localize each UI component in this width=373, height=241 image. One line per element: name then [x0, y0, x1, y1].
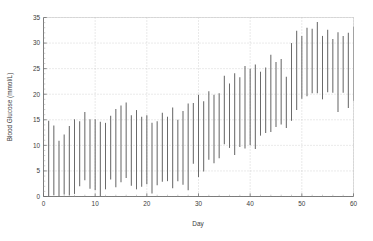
x-tick-label: 30: [195, 200, 203, 207]
x-tick-label: 10: [92, 200, 100, 207]
y-tick-label: 35: [33, 14, 41, 21]
y-tick-label: 25: [33, 65, 41, 72]
tick-labels: 051015202530350102030405060: [33, 14, 358, 207]
y-tick-label: 20: [33, 91, 41, 98]
y-tick-label: 5: [36, 167, 40, 174]
y-axis-title: Blood Glucose (mmol/L): [6, 73, 14, 142]
x-tick-label: 40: [247, 200, 255, 207]
y-tick-label: 15: [33, 116, 41, 123]
plot-canvas: 051015202530350102030405060 Blood Glucos…: [0, 0, 373, 241]
x-axis-title: Day: [192, 220, 204, 228]
x-tick-label: 20: [143, 200, 151, 207]
x-tick-label: 50: [298, 200, 306, 207]
data-bars: [49, 22, 354, 196]
x-tick-label: 60: [350, 200, 358, 207]
y-tick-label: 10: [33, 142, 41, 149]
y-tick-label: 30: [33, 39, 41, 46]
chart-figure: 051015202530350102030405060 Blood Glucos…: [0, 0, 373, 241]
x-tick-label: 0: [42, 200, 46, 207]
y-tick-label: 0: [36, 193, 40, 200]
